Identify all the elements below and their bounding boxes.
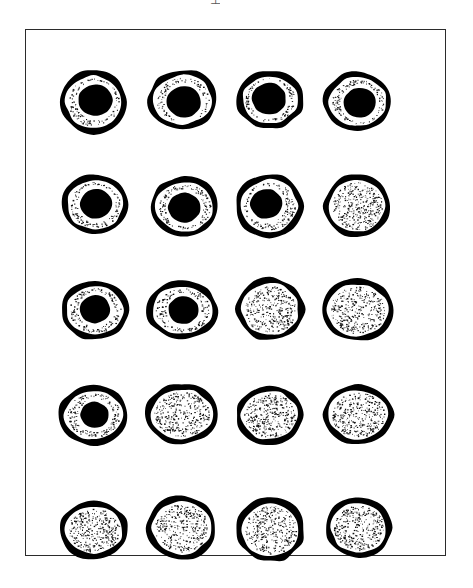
cell-4-4 bbox=[310, 365, 406, 465]
cell-grid bbox=[25, 29, 446, 556]
cell-4-2 bbox=[135, 365, 231, 465]
cell-1-1 bbox=[47, 51, 143, 151]
cell-5-3 bbox=[222, 479, 318, 579]
cell-4-1 bbox=[47, 365, 143, 465]
cell-2-4 bbox=[310, 156, 406, 256]
cell-3-4 bbox=[310, 260, 406, 360]
cell-2-1 bbox=[47, 156, 143, 256]
cell-3-1 bbox=[47, 260, 143, 360]
cell-4-3 bbox=[222, 365, 318, 465]
cell-2-3 bbox=[222, 156, 318, 256]
cell-3-3 bbox=[222, 260, 318, 360]
cell-5-2 bbox=[135, 479, 231, 579]
cell-row-1 bbox=[25, 51, 446, 151]
cell-1-2 bbox=[135, 51, 231, 151]
cell-3-2 bbox=[135, 260, 231, 360]
figure-root: ⊥ bbox=[0, 0, 473, 588]
cell-2-2 bbox=[135, 156, 231, 256]
cell-5-1 bbox=[47, 479, 143, 579]
scan-artifact-glyph: ⊥ bbox=[210, 0, 220, 4]
cell-row-5 bbox=[25, 479, 446, 579]
cell-1-4 bbox=[310, 51, 406, 151]
cell-row-3 bbox=[25, 260, 446, 360]
cell-row-2 bbox=[25, 156, 446, 256]
cell-5-4 bbox=[310, 479, 406, 579]
cell-row-4 bbox=[25, 365, 446, 465]
cell-1-3 bbox=[222, 51, 318, 151]
